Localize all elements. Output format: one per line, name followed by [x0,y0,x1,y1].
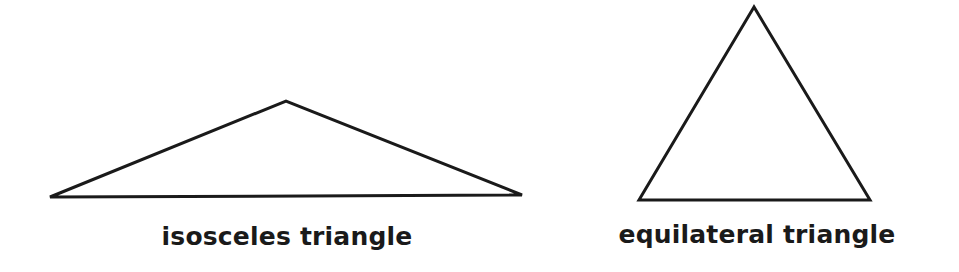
equilateral-triangle-label: equilateral triangle [619,220,896,249]
isosceles-triangle-label: isosceles triangle [162,222,413,251]
diagram-canvas: isosceles triangle equilateral triangle [0,0,959,272]
equilateral-triangle-shape [639,7,870,200]
isosceles-triangle-shape [50,101,522,197]
